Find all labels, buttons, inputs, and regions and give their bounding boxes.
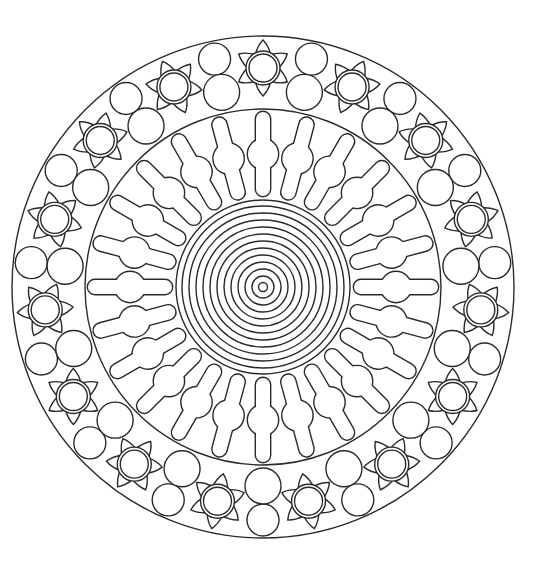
ring-circle-inner (393, 402, 429, 438)
ring-circle-inner (362, 108, 398, 144)
flower-inner-circle (41, 205, 69, 233)
ring-circle-inner (97, 402, 133, 438)
spoke-bulge-fill (248, 405, 278, 435)
flower-inner-circle (295, 487, 323, 515)
ring-circle-inner (245, 468, 281, 504)
mandala-drawing (0, 0, 540, 572)
flower-inner-circle (249, 54, 277, 82)
mandala-svg (0, 0, 540, 572)
ring-circle-inner (56, 330, 92, 366)
flower-inner-circle (412, 126, 440, 154)
spoke-bulge-fill (115, 272, 145, 302)
flower-inner-circle (439, 383, 467, 411)
flower-inner-circle (467, 296, 495, 324)
ring-circle-outer (45, 155, 77, 187)
flower-inner-circle (59, 383, 87, 411)
spoke-bulge-fill (381, 272, 411, 302)
ring-circle-inner (204, 74, 240, 110)
spoke-bulge-fill (248, 139, 278, 169)
ring-circle-outer (342, 484, 374, 516)
ring-circle-inner (128, 108, 164, 144)
ring-circle-outer (479, 247, 511, 279)
flower-inner-circle (86, 126, 114, 154)
ring-circle-inner (47, 248, 83, 284)
flower-inner-circle (120, 450, 148, 478)
ring-circle-inner (73, 170, 109, 206)
flower-inner-circle (378, 450, 406, 478)
ring-circle-inner (326, 451, 362, 487)
flower-inner-circle (31, 296, 59, 324)
ring-circle-outer (247, 504, 279, 536)
flower-inner-circle (203, 487, 231, 515)
ring-circle-outer (469, 343, 501, 375)
ring-circle-outer (295, 43, 327, 75)
ring-circle-inner (417, 170, 453, 206)
flower-inner-circle (160, 73, 188, 101)
ring-circle-outer (25, 343, 57, 375)
flower-inner-circle (457, 205, 485, 233)
ring-circle-inner (286, 74, 322, 110)
ring-circle-inner (164, 451, 200, 487)
ring-circle-outer (449, 155, 481, 187)
flower-inner-circle (338, 73, 366, 101)
ring-circle-inner (443, 248, 479, 284)
ring-circle-outer (199, 43, 231, 75)
ring-circle-inner (434, 330, 470, 366)
ring-circle-outer (152, 484, 184, 516)
ring-circle-outer (15, 247, 47, 279)
